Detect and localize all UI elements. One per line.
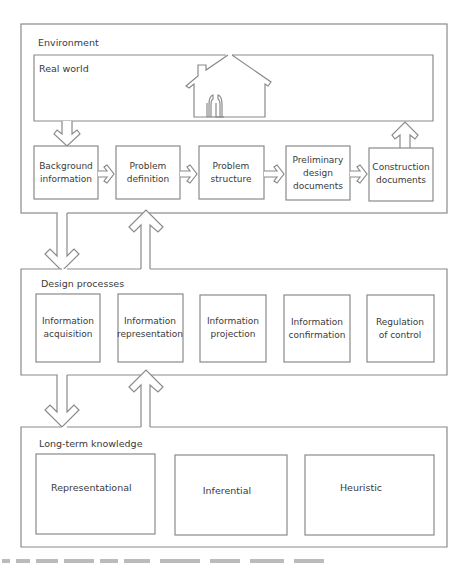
stage-preliminary-design-documents: Preliminarydesigndocuments [286, 146, 350, 200]
knowledge-inferential: Inferential [175, 455, 287, 535]
arrow-environment-to-design [45, 213, 79, 271]
process-regulation-of-control: Regulationof control [367, 295, 434, 362]
stage-background-information: Backgroundinformation [34, 146, 98, 199]
long-term-knowledge-label: Long-term knowledge [39, 438, 143, 449]
knowledge-heuristic: Heuristic [305, 455, 434, 535]
real-world-label: Real world [39, 63, 89, 74]
svg-text:Inferential: Inferential [203, 485, 251, 496]
arrow-knowledge-to-design [129, 370, 163, 427]
knowledge-representational: Representational [36, 454, 155, 534]
arrow-design-to-knowledge [45, 375, 79, 427]
stage-problem-definition: Problemdefinition [116, 146, 180, 199]
svg-text:Representational: Representational [51, 482, 132, 493]
cropped-caption-fragment [2, 559, 324, 563]
design-processes-label: Design processes [41, 278, 124, 289]
process-information-acquisition: Informationacquisition [36, 294, 100, 362]
stage-problem-structure: Problemstructure [199, 146, 264, 199]
process-information-representation: Informationrepresentation [117, 294, 183, 362]
stage-construction-documents: Constructiondocuments [369, 148, 433, 201]
process-information-projection: Informationprojection [200, 295, 266, 362]
design-process-diagram: Environment Real world Backgroundinforma… [0, 0, 466, 563]
real-world-box [34, 55, 433, 121]
process-information-confirmation: Informationconfirmation [284, 295, 350, 362]
arrow-design-to-environment [129, 210, 163, 269]
svg-text:Heuristic: Heuristic [340, 482, 382, 493]
environment-label: Environment [38, 37, 99, 48]
